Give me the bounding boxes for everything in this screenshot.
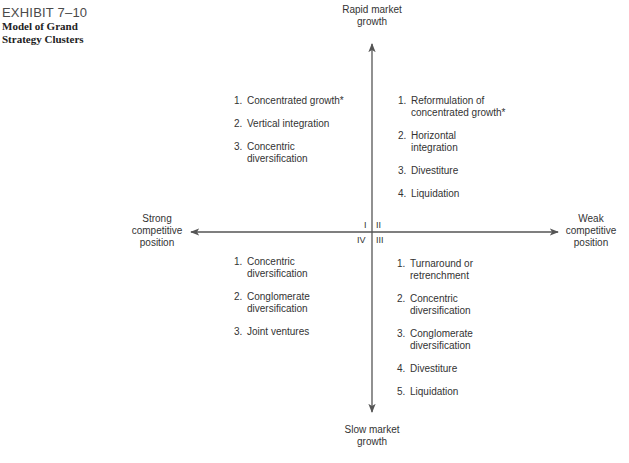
list-item: 3.Conglomeratediversification <box>397 328 537 352</box>
quadrant-label-III: III <box>376 235 384 245</box>
list-item: 3.Divestiture <box>398 165 538 177</box>
quadrant-IV-strategy-list: 1.Concentricdiversification 2.Conglomera… <box>234 256 364 349</box>
list-item: 1.Concentrated growth* <box>234 95 364 107</box>
list-item: 1.Turnaround orretrenchment <box>397 258 537 282</box>
axis-label-right: Weak competitive position <box>558 213 624 249</box>
quadrant-III-strategy-list: 1.Turnaround orretrenchment 2.Concentric… <box>397 258 537 409</box>
list-item: 4.Liquidation <box>398 188 538 200</box>
list-item: 5.Liquidation <box>397 386 537 398</box>
list-item: 2.Horizontalintegration <box>398 130 538 154</box>
quadrant-label-IV: IV <box>357 235 366 245</box>
axis-label-left: Strong competitive position <box>124 213 190 249</box>
quadrant-II-strategy-list: 1.Reformulation ofconcentrated growth* 2… <box>398 95 538 211</box>
list-item: 3.Concentricdiversification <box>234 141 364 165</box>
list-item: 2.Conglomeratediversification <box>234 291 364 315</box>
axis-label-bottom: Slow market growth <box>332 424 412 448</box>
quadrant-label-II: II <box>376 220 381 230</box>
quadrant-I-strategy-list: 1.Concentrated growth* 2.Vertical integr… <box>234 95 364 176</box>
quadrant-label-I: I <box>364 220 367 230</box>
list-item: 2.Vertical integration <box>234 118 364 130</box>
axis-label-top: Rapid market growth <box>332 4 412 28</box>
list-item: 1.Reformulation ofconcentrated growth* <box>398 95 538 119</box>
list-item: 3.Joint ventures <box>234 326 364 338</box>
list-item: 4.Divestiture <box>397 363 537 375</box>
list-item: 2.Concentricdiversification <box>397 293 537 317</box>
list-item: 1.Concentricdiversification <box>234 256 364 280</box>
